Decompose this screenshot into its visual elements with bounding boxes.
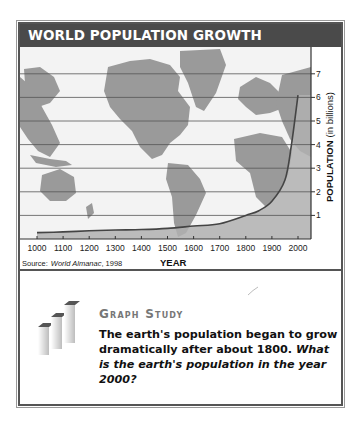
svg-text:1800: 1800 (236, 243, 255, 253)
bar-graph-icon (36, 297, 80, 357)
svg-text:1900: 1900 (262, 243, 281, 253)
svg-text:3: 3 (316, 163, 321, 173)
x-axis-label: YEAR (160, 257, 187, 268)
svg-text:1400: 1400 (132, 243, 151, 253)
svg-text:4: 4 (316, 140, 321, 150)
pen-mark (247, 286, 259, 296)
svg-text:1600: 1600 (184, 243, 203, 253)
svg-text:1700: 1700 (210, 243, 229, 253)
svg-text:1: 1 (316, 210, 321, 220)
svg-text:1100: 1100 (54, 243, 73, 253)
svg-text:7: 7 (316, 69, 321, 79)
svg-text:2: 2 (316, 187, 321, 197)
y-axis-ticks: 1234567 (311, 69, 321, 221)
svg-text:5: 5 (316, 116, 321, 126)
svg-text:1500: 1500 (158, 243, 177, 253)
population-chart: 1234567 10001100120013001400150016001700… (20, 47, 341, 271)
graph-frame: WORLD POPULATION GROWTH (18, 22, 343, 406)
graph-study-panel: Graph Study The earth's population began… (20, 273, 341, 404)
svg-text:2000: 2000 (289, 243, 308, 253)
graph-study-heading: Graph Study (99, 307, 184, 321)
source-note: Source:World Almanac, 1998 (22, 259, 122, 268)
svg-text:1300: 1300 (106, 243, 125, 253)
graph-study-text: The earth's population began to grow dra… (99, 327, 339, 387)
chart-area: 1234567 10001100120013001400150016001700… (20, 47, 341, 271)
svg-text:1000: 1000 (28, 243, 47, 253)
chart-title: WORLD POPULATION GROWTH (20, 24, 341, 47)
svg-text:6: 6 (316, 92, 321, 102)
svg-text:1200: 1200 (80, 243, 99, 253)
y-axis-label: POPULATION(in billions) (324, 92, 335, 202)
